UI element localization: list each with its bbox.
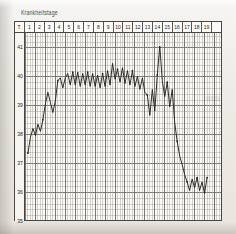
header-cell-day-17[interactable]: 17 xyxy=(183,22,193,32)
header-cell-day-6[interactable]: 6 xyxy=(74,22,84,32)
header-cell-day-3[interactable]: 3 xyxy=(45,22,55,32)
header-cell-day-4[interactable]: 4 xyxy=(55,22,65,32)
axis-tick-text: 38 xyxy=(15,130,25,137)
measurement-point xyxy=(156,74,158,76)
chart-frame: T.12345678910111213141516171819 41403938… xyxy=(14,21,222,221)
header-cell-day-9[interactable]: 9 xyxy=(104,22,114,32)
header-cell-label: 13 xyxy=(143,21,152,33)
header-cell-label: 16 xyxy=(173,21,182,33)
temperature-curve-svg xyxy=(25,33,221,220)
plot-area xyxy=(25,33,221,220)
header-cell-day-8[interactable]: 8 xyxy=(94,22,104,32)
measurement-point xyxy=(42,119,44,121)
temperature-axis: 41403938373635 xyxy=(15,33,25,221)
header-cell-label: 14 xyxy=(153,21,162,33)
header-cell-label: 6 xyxy=(74,21,83,33)
fever-chart: Krankheitstage T.12345678910111213141516… xyxy=(0,0,236,234)
axis-tick-text: 40 xyxy=(15,72,25,79)
axis-tick-text: 41 xyxy=(15,43,25,50)
header-cell-label: 10 xyxy=(114,21,123,33)
measurement-point xyxy=(176,141,178,143)
header-cell-day-14[interactable]: 14 xyxy=(153,22,163,32)
header-cell-label: 8 xyxy=(94,21,103,33)
header-cell-time[interactable]: T. xyxy=(15,22,25,32)
axis-tick-text: 37 xyxy=(15,159,25,166)
measurement-point xyxy=(132,70,134,72)
header-cell-day-10[interactable]: 10 xyxy=(114,22,124,32)
measurement-point xyxy=(72,71,74,73)
header-cell-label: T. xyxy=(15,21,24,33)
axis-tick-label-39: 39 xyxy=(15,102,25,108)
header-cell-tail[interactable] xyxy=(212,22,221,32)
header-cell-day-1[interactable]: 1 xyxy=(25,22,35,32)
header-cell-label: 15 xyxy=(163,21,172,33)
measurement-point xyxy=(186,181,188,183)
axis-tick-text: 36 xyxy=(15,188,25,195)
header-cell-label: 19 xyxy=(202,21,211,33)
header-cell-day-12[interactable]: 12 xyxy=(133,22,143,32)
day-header-row: T.12345678910111213141516171819 xyxy=(15,22,221,33)
header-cell-day-2[interactable]: 2 xyxy=(35,22,45,32)
scan-edge-shadow-top xyxy=(0,0,236,8)
header-cell-label: 1 xyxy=(25,21,34,33)
axis-tick-label-36: 36 xyxy=(15,189,25,195)
measurement-point xyxy=(57,80,59,82)
plot-background xyxy=(25,33,221,220)
header-cell-label: 11 xyxy=(123,21,132,33)
header-cell-label: 4 xyxy=(55,21,64,33)
axis-tick-label-38: 38 xyxy=(15,131,25,137)
measurement-point xyxy=(117,68,119,70)
measurement-point xyxy=(147,94,149,96)
page-title: Krankheitstage xyxy=(21,9,58,17)
measurement-point xyxy=(166,81,168,83)
measurement-point xyxy=(196,177,198,179)
header-cell-day-19[interactable]: 19 xyxy=(202,22,212,32)
measurement-point xyxy=(102,73,104,75)
axis-tick-label-37: 37 xyxy=(15,160,25,166)
axis-tick-text: 39 xyxy=(15,101,25,108)
header-cell-label: 2 xyxy=(35,21,44,33)
scan-edge-shadow-left xyxy=(0,0,14,234)
header-cell-day-7[interactable]: 7 xyxy=(84,22,94,32)
header-cell-day-15[interactable]: 15 xyxy=(163,22,173,32)
header-cell-day-13[interactable]: 13 xyxy=(143,22,153,32)
header-cell-label: 12 xyxy=(133,21,142,33)
measurement-point xyxy=(27,152,29,154)
header-cell-label: 5 xyxy=(64,21,73,33)
measurement-point xyxy=(206,177,208,179)
header-cell-day-16[interactable]: 16 xyxy=(173,22,183,32)
header-cell-label: 18 xyxy=(192,21,201,33)
axis-tick-label-41: 41 xyxy=(15,44,25,50)
axis-tick-label-40: 40 xyxy=(15,73,25,79)
measurement-point xyxy=(87,71,89,73)
header-cell-label: 7 xyxy=(84,21,93,33)
scan-edge-shadow-bottom xyxy=(0,222,236,234)
header-cell-label: 9 xyxy=(104,21,113,33)
header-cell-day-18[interactable]: 18 xyxy=(192,22,202,32)
header-cell-day-5[interactable]: 5 xyxy=(64,22,74,32)
header-cell-label: 17 xyxy=(183,21,192,33)
header-cell-label: 3 xyxy=(45,21,54,33)
header-cell-day-11[interactable]: 11 xyxy=(123,22,133,32)
